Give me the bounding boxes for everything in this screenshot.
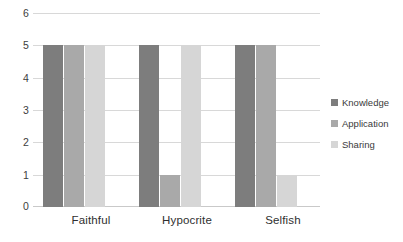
y-tick-4: 4 [7,73,29,84]
legend-label: Knowledge [342,98,389,108]
x-tick-hypocrite: Hypocrite [139,214,235,226]
bar-faithful-application [64,45,84,207]
bar-group-selfish [235,13,297,207]
legend-item-sharing: Sharing [331,136,389,153]
bar-selfish-application [256,45,276,207]
bar-faithful-sharing [85,45,105,207]
legend-swatch-icon [331,99,338,106]
y-tick-0: 0 [7,201,29,212]
legend-label: Sharing [342,140,375,150]
plot-area [33,13,320,207]
bar-selfish-sharing [277,175,297,207]
y-tick-2: 2 [7,137,29,148]
legend-swatch-icon [331,141,338,148]
legend-label: Application [342,119,388,129]
bar-selfish-knowledge [235,45,255,207]
y-tick-5: 5 [7,40,29,51]
y-tick-1: 1 [7,170,29,181]
bar-group-hypocrite [139,13,201,207]
x-tick-faithful: Faithful [43,214,139,226]
legend-swatch-icon [331,120,338,127]
chart-legend: Knowledge Application Sharing [331,94,389,157]
bar-group-faithful [43,13,105,207]
bar-faithful-knowledge [43,45,63,207]
bar-hypocrite-application [160,175,180,207]
y-tick-3: 3 [7,105,29,116]
bar-hypocrite-sharing [181,45,201,207]
bar-hypocrite-knowledge [139,45,159,207]
y-tick-6: 6 [7,8,29,19]
legend-item-knowledge: Knowledge [331,94,389,111]
x-tick-selfish: Selfish [235,214,331,226]
bar-chart: 6 5 4 3 2 1 0 Faithful Hypocrite Selfish… [0,0,403,242]
legend-item-application: Application [331,115,389,132]
